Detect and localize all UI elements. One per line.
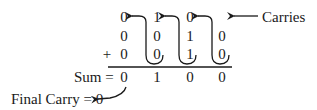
carry-digit: 1 [153,10,161,25]
sum-digit: 0 [186,70,194,85]
carry-digit: 0 [120,10,128,25]
operand-a-digit: 1 [186,29,194,44]
sum-label: Sum = [74,70,114,85]
operand-b-digit: 0 [120,47,128,62]
operand-b-digit: 0 [153,47,161,62]
operand-b-digit: 0 [218,47,226,62]
operand-a-digit: 0 [153,29,161,44]
plus-sign: + [103,47,111,62]
final-carry-label: Final Carry = 0 [11,92,103,107]
sum-digit: 0 [218,70,226,85]
sum-digit: 1 [153,70,161,85]
carries-label: Carries [262,10,305,25]
sum-digit: 0 [120,70,128,85]
carry-digit: 0 [186,10,194,25]
operand-a-digit: 0 [218,29,226,44]
operand-b-digit: 1 [186,47,194,62]
operand-a-digit: 0 [120,29,128,44]
